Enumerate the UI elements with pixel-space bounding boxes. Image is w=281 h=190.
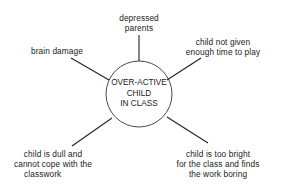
connector-lower-left xyxy=(72,118,112,146)
center-label: OVER-ACTIVE CHILD IN CLASS xyxy=(104,78,174,110)
connector-upper-right xyxy=(167,58,201,80)
branch-dull: child is dull and cannot cope with the c… xyxy=(8,149,98,179)
branch-too-bright: child is too bright for the class and fi… xyxy=(168,149,268,179)
branch-brain-damage: brain damage xyxy=(22,46,92,56)
connector-lower-right xyxy=(167,117,208,143)
connector-upper-left xyxy=(71,58,109,80)
branch-depressed-parents: depressed parents xyxy=(104,13,174,33)
branch-not-enough-play: child not given enough time to play xyxy=(178,37,268,57)
